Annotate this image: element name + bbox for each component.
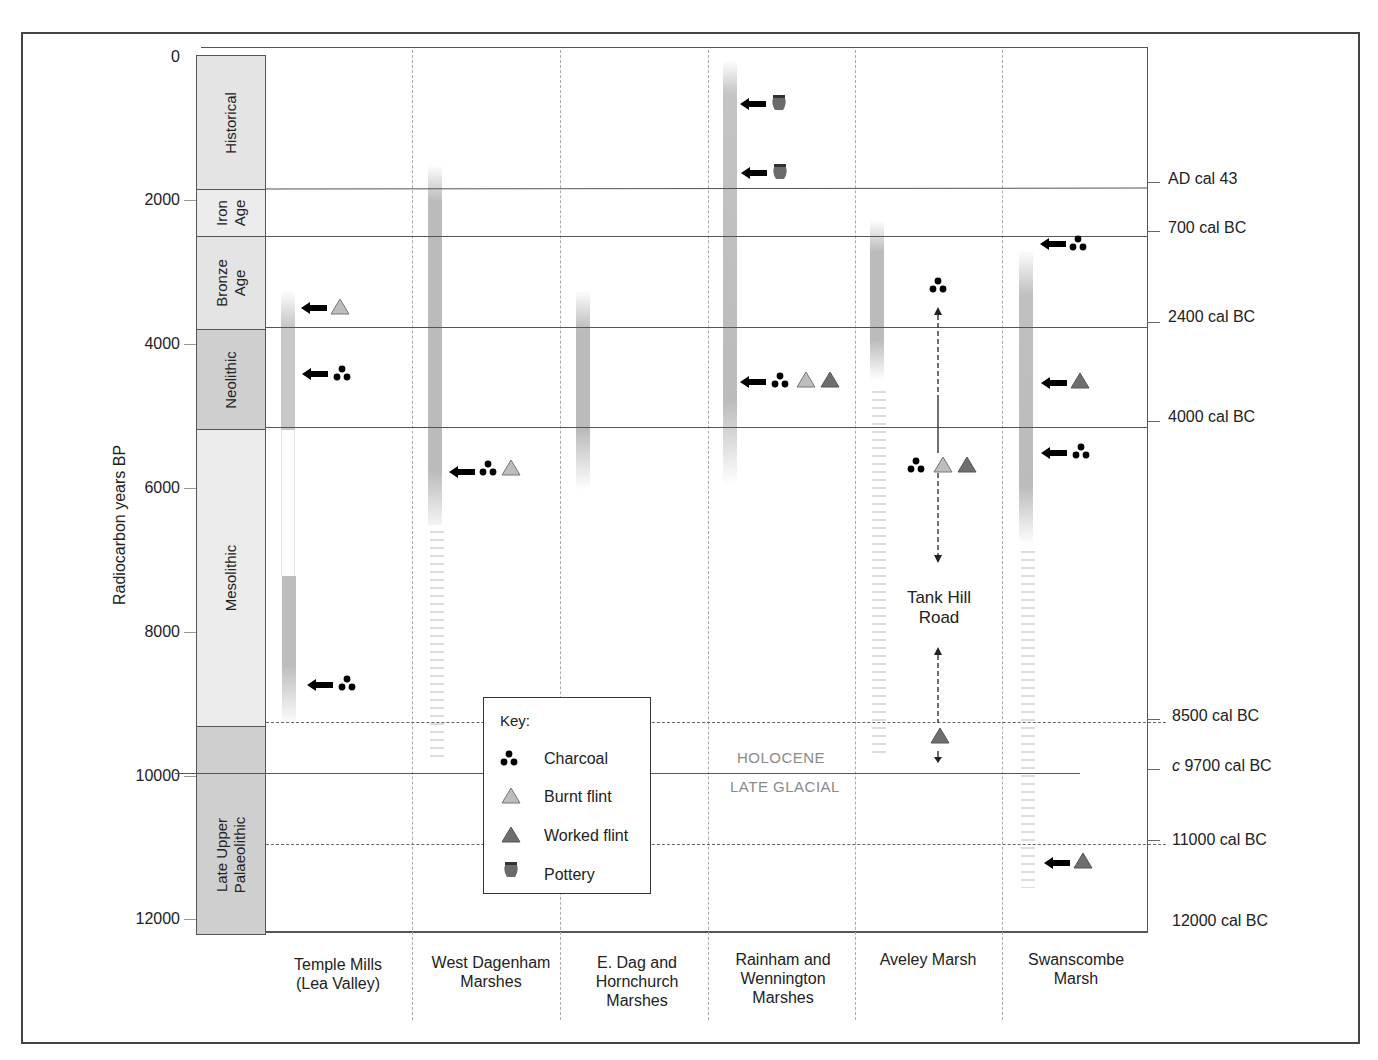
- arrow-icon: [301, 302, 327, 314]
- right-tick: [1148, 231, 1160, 232]
- y-tick-mark: [184, 344, 196, 345]
- boundary-line-11000bc: [266, 844, 1166, 845]
- pottery-icon: [772, 164, 788, 180]
- range-connector: [930, 305, 946, 765]
- site-label-east-dagenham: E. Dag and Hornchurch Marshes: [596, 953, 679, 1010]
- column-divider: [412, 50, 413, 1020]
- y-tick-mark: [184, 200, 196, 201]
- burnt-flint-icon: [501, 787, 521, 804]
- period-iron-age: Iron Age: [196, 189, 266, 237]
- right-tick: [1148, 322, 1160, 323]
- epoch-late-glacial: LATE GLACIAL: [730, 778, 840, 795]
- right-tick: [1148, 769, 1160, 770]
- legend-item-charcoal: Charcoal: [498, 748, 648, 770]
- peat-bar-rainham: [723, 60, 737, 485]
- site-label-temple-mills: Temple Mills (Lea Valley): [294, 955, 382, 993]
- period-late-upper-palaeolithic: Late Upper Palaeolithic: [196, 726, 266, 935]
- charcoal-icon: [479, 460, 497, 476]
- cal-label-8500bc: 8500 cal BC: [1172, 707, 1259, 725]
- column-divider: [1002, 50, 1003, 1020]
- worked-flint-icon: [957, 456, 977, 473]
- arrow-icon: [740, 98, 766, 110]
- arrow-icon: [741, 167, 767, 179]
- y-tick: 0: [100, 48, 180, 66]
- burnt-flint-icon: [796, 371, 816, 388]
- cal-label-9700bc: c 9700 cal BC: [1172, 757, 1272, 775]
- clay-bar-swanscombe: [1021, 545, 1035, 888]
- legend-item-worked-flint: Worked flint: [498, 825, 648, 847]
- arrow-icon: [449, 466, 475, 478]
- peat-bar-swanscombe: [1019, 250, 1033, 545]
- right-tick: [1148, 840, 1160, 841]
- y-tick-mark: [184, 919, 196, 920]
- peat-bar-temple-mills-lower: [282, 576, 296, 726]
- boundary-line-4000bc: [266, 427, 1148, 428]
- site-label-aveley: Aveley Marsh: [880, 950, 977, 969]
- worked-flint-icon: [1073, 852, 1093, 869]
- cal-label-ad43: AD cal 43: [1168, 170, 1237, 188]
- legend-item-pottery: Pottery: [498, 864, 648, 886]
- burnt-flint-icon: [501, 459, 521, 476]
- column-divider: [855, 50, 856, 1020]
- cal-label-11000bc: 11000 cal BC: [1172, 831, 1267, 849]
- y-axis-label: Radiocarbon years BP: [111, 445, 129, 605]
- charcoal-icon: [1072, 443, 1090, 459]
- clay-bar-aveley: [872, 385, 886, 757]
- arrow-icon: [1041, 377, 1067, 389]
- legend-item-burnt-flint: Burnt flint: [498, 786, 648, 808]
- worked-flint-icon: [820, 371, 840, 388]
- boundary-line-12000bc: [266, 931, 1148, 932]
- worked-flint-icon: [501, 826, 521, 843]
- cal-label-700bc: 700 cal BC: [1168, 219, 1246, 237]
- peat-bar-east-dagenham: [576, 290, 590, 490]
- y-tick-mark: [184, 632, 196, 633]
- boundary-line-8500bc: [266, 722, 1166, 723]
- pottery-icon: [771, 95, 787, 111]
- peat-bar-temple-mills-upper: [281, 290, 295, 430]
- right-tick: [1148, 719, 1160, 720]
- site-label-west-dagenham: West Dagenham Marshes: [432, 953, 551, 991]
- legend-title: Key:: [500, 712, 530, 729]
- plot-area: [201, 47, 1148, 933]
- charcoal-icon: [771, 372, 789, 388]
- period-bronze-age: Bronze Age: [196, 236, 266, 330]
- cal-label-2400bc: 2400 cal BC: [1168, 308, 1255, 326]
- column-divider: [708, 50, 709, 1020]
- burnt-flint-icon: [330, 298, 350, 315]
- charcoal-icon: [929, 277, 947, 293]
- charcoal-icon: [338, 675, 356, 691]
- arrow-icon: [740, 376, 766, 388]
- charcoal-icon: [1069, 235, 1087, 251]
- charcoal-icon: [500, 750, 518, 766]
- charcoal-icon: [333, 365, 351, 381]
- arrow-icon: [1041, 447, 1067, 459]
- right-tick: [1148, 182, 1160, 183]
- arrow-icon: [1044, 857, 1070, 869]
- period-historical: Historical: [196, 55, 266, 190]
- epoch-holocene: HOLOCENE: [737, 749, 825, 766]
- y-tick: 8000: [100, 623, 180, 641]
- period-mesolithic: Mesolithic: [196, 429, 266, 727]
- worked-flint-icon: [1070, 372, 1090, 389]
- y-tick: 12000: [100, 910, 180, 928]
- cal-label-12000bc: 12000 cal BC: [1172, 912, 1268, 930]
- boundary-line-2400bc: [266, 327, 1148, 328]
- site-label-swanscombe: Swanscombe Marsh: [1028, 950, 1124, 988]
- charcoal-icon: [907, 457, 925, 473]
- peat-bar-aveley: [870, 220, 884, 380]
- cal-label-4000bc: 4000 cal BC: [1168, 408, 1255, 426]
- y-tick: 10000: [100, 767, 180, 785]
- y-tick-mark: [184, 488, 196, 489]
- period-neolithic: Neolithic: [196, 329, 266, 430]
- arrow-icon: [1040, 238, 1066, 250]
- right-tick: [1148, 421, 1160, 422]
- annotation-tank-hill-road: Tank Hill Road: [907, 588, 971, 628]
- arrow-icon: [307, 679, 333, 691]
- boundary-line-700bc: [266, 236, 1148, 237]
- arrow-icon: [302, 368, 328, 380]
- y-tick: 2000: [100, 191, 180, 209]
- gap-bar-temple-mills: [281, 430, 295, 576]
- y-tick: 6000: [100, 479, 180, 497]
- peat-bar-west-dagenham: [428, 165, 442, 525]
- pottery-icon: [503, 862, 519, 878]
